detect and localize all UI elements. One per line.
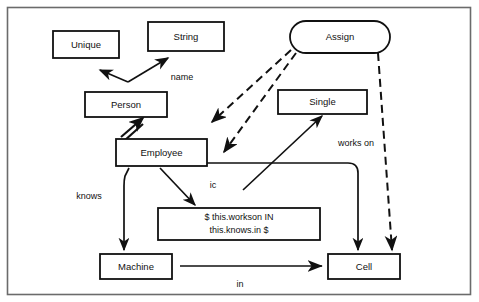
- edge-assign-cell: [378, 53, 392, 250]
- edge-label-works-on: works on: [337, 138, 374, 148]
- edge-employee-person: [121, 118, 143, 141]
- edge-label-name: name: [171, 72, 194, 82]
- node-assign-label: Assign: [326, 31, 355, 42]
- node-unique[interactable]: Unique: [53, 31, 119, 58]
- edge-employee-single: [243, 116, 322, 190]
- constraint-line-2: this.knows.in $: [209, 225, 268, 235]
- edge-person-unique: [100, 70, 128, 82]
- node-single[interactable]: Single: [278, 90, 367, 114]
- node-unique-label: Unique: [71, 39, 101, 50]
- node-machine[interactable]: Machine: [100, 254, 172, 279]
- diagram-svg: Unique String Assign Person Single Emplo…: [0, 0, 479, 302]
- diagram-canvas: Unique String Assign Person Single Emplo…: [0, 0, 479, 302]
- edge-employee-constraint: [160, 168, 195, 205]
- node-assign[interactable]: Assign: [290, 21, 390, 53]
- edge-label-knows: knows: [76, 191, 102, 201]
- node-cell-label: Cell: [356, 261, 372, 272]
- edge-person-string: [128, 58, 168, 82]
- node-cell[interactable]: Cell: [328, 254, 400, 279]
- node-constraint[interactable]: $ this.workson IN this.knows.in $: [158, 208, 320, 240]
- edge-label-in: in: [236, 279, 243, 289]
- node-machine-label: Machine: [118, 261, 154, 272]
- node-employee[interactable]: Employee: [116, 139, 207, 166]
- node-employee-label: Employee: [140, 147, 182, 158]
- node-string-label: String: [174, 31, 199, 42]
- node-person-label: Person: [111, 99, 141, 110]
- edge-employee-machine: [124, 168, 129, 250]
- node-string[interactable]: String: [148, 22, 224, 51]
- node-single-label: Single: [309, 96, 335, 107]
- edge-label-ic: ic: [210, 180, 217, 190]
- node-person[interactable]: Person: [85, 92, 167, 117]
- constraint-line-1: $ this.workson IN: [204, 212, 273, 222]
